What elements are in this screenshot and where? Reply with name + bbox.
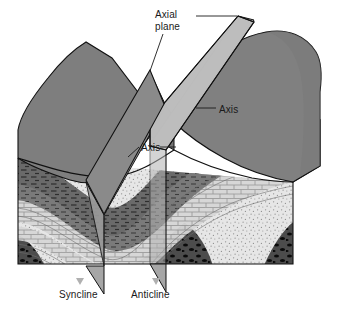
label-anticline: Anticline	[131, 289, 170, 301]
leader-axial-plane-left	[150, 34, 163, 71]
anticline-axial-trace	[150, 144, 166, 264]
label-axis-syncline: Axis	[141, 142, 160, 154]
label-syncline: Syncline	[59, 289, 98, 301]
label-axial-plane: Axial plane	[155, 9, 180, 32]
anticline-label-pointer	[152, 278, 160, 285]
syncline-label-pointer	[76, 278, 84, 285]
block-diagram-canvas	[0, 0, 340, 309]
geology-fold-diagram: Axial plane Axis Axis Syncline Anticline	[0, 0, 340, 309]
label-axis-anticline: Axis	[219, 104, 238, 116]
